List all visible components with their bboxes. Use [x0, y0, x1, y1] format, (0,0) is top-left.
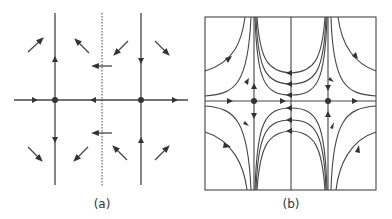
arrow-icon: [138, 137, 144, 143]
arrow-icon: [172, 97, 178, 103]
arrow-icon: [138, 58, 144, 64]
panel-a-label: (a): [94, 197, 111, 211]
panel-b: [205, 17, 376, 190]
panel-b-label: (b): [283, 197, 300, 211]
arrow-icon: [52, 137, 58, 143]
arrow-icon: [90, 97, 96, 103]
figure-canvas: [0, 0, 392, 219]
arrow-icon: [52, 56, 58, 62]
panel-a: [14, 13, 188, 186]
fixed-point-right: [138, 97, 144, 103]
saddle-point-right: [325, 98, 331, 104]
saddle-point-left: [251, 98, 257, 104]
arrow-icon: [32, 97, 38, 103]
fixed-point-left: [52, 97, 58, 103]
